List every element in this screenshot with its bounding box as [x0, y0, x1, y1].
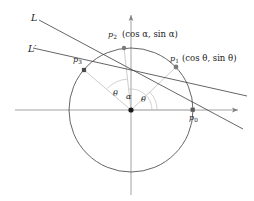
- point-origin: [128, 107, 133, 112]
- label-angle-theta-right: θ: [141, 96, 146, 104]
- label-p2: p2: [108, 31, 117, 40]
- label-angle-theta-left: θ: [113, 90, 118, 98]
- label-angle-alpha: α: [126, 93, 131, 101]
- point-p1: [174, 65, 179, 70]
- label-p1: p1: [170, 55, 179, 64]
- label-p2-subscript: 2: [113, 34, 117, 40]
- angle-arc-theta-left: [108, 79, 128, 88]
- label-angle-alpha-text: α: [126, 92, 131, 101]
- label-p3-subscript: 3: [78, 59, 82, 65]
- point-p2: [122, 46, 126, 50]
- label-line-L-prime-mark: ′: [34, 43, 36, 54]
- label-p2-coords: (cos α, sin α): [122, 30, 178, 39]
- label-p0-subscript: 0: [194, 117, 198, 123]
- angle-arc-theta-right: [150, 92, 157, 110]
- label-angle-theta-right-text: θ: [141, 95, 146, 104]
- label-p1-coords: (cos θ, sin θ): [182, 54, 236, 63]
- unit-circle-figure: L L′ p2 (cos α, sin α) p1 (cos θ, sin θ)…: [0, 0, 254, 201]
- label-angle-theta-left-text: θ: [113, 89, 118, 98]
- label-p2-coords-text: (cos α, sin α): [122, 29, 178, 39]
- label-p0: p0: [189, 114, 198, 123]
- label-p1-coords-text: (cos θ, sin θ): [182, 53, 236, 63]
- label-p1-subscript: 1: [175, 58, 179, 64]
- axes-group: [15, 15, 238, 195]
- radius-to-p1: [131, 67, 176, 110]
- label-p3: p3: [73, 56, 82, 65]
- point-p3: [82, 68, 86, 72]
- label-line-L: L: [31, 13, 37, 23]
- label-line-L-text: L: [31, 12, 37, 23]
- label-line-L-prime: L′: [28, 44, 36, 54]
- point-p0: [191, 108, 195, 112]
- radius-to-p3: [84, 70, 131, 110]
